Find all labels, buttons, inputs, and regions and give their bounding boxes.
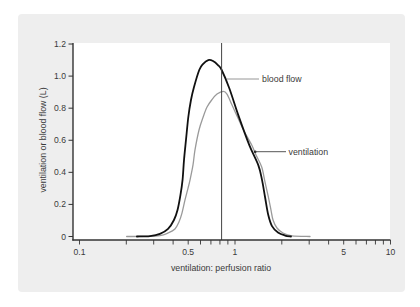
x-tick-label: 0.1 — [74, 247, 86, 257]
figure: 00.20.40.60.81.01.2 0.10.51510 ventilati… — [0, 0, 420, 307]
y-tick-label: 0.6 — [54, 135, 66, 145]
x-tick-label: 0.5 — [182, 247, 194, 257]
ventilation-label: ventilation — [289, 147, 329, 157]
y-tick-label: 0 — [61, 232, 66, 242]
x-tick-label: 1 — [233, 247, 238, 257]
x-tick-label: 10 — [386, 247, 396, 257]
chart: 00.20.40.60.81.01.2 0.10.51510 ventilati… — [0, 0, 420, 307]
y-tick-label: 0.8 — [54, 103, 66, 113]
plot-area — [73, 43, 390, 240]
blood-flow-label: blood flow — [262, 74, 302, 84]
y-tick-label: 0.2 — [54, 199, 66, 209]
y-tick-label: 1.0 — [54, 71, 66, 81]
x-tick-label: 5 — [341, 247, 346, 257]
y-axis-title: ventilation or blood flow (L) — [38, 87, 48, 192]
x-axis-title: ventilation: perfusion ratio — [171, 263, 271, 273]
y-tick-label: 0.4 — [54, 167, 66, 177]
y-tick-label: 1.2 — [54, 39, 66, 49]
